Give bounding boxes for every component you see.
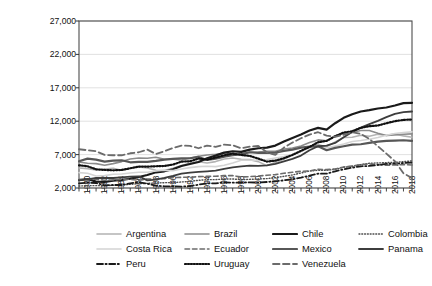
legend-item-panama[interactable]: Panama bbox=[358, 241, 423, 256]
legend-label: Mexico bbox=[302, 243, 332, 254]
legend-label: Peru bbox=[126, 258, 146, 269]
legend-swatch-icon bbox=[358, 244, 384, 254]
legend-label: Uruguay bbox=[214, 258, 249, 269]
legend-item-argentina[interactable]: Argentina bbox=[96, 226, 166, 241]
legend-swatch-icon bbox=[96, 259, 122, 269]
legend-label: Costa Rica bbox=[126, 243, 172, 254]
legend-item-chile[interactable]: Chile bbox=[272, 226, 323, 241]
series-line-panama bbox=[79, 112, 412, 181]
legend-label: Venezuela bbox=[302, 258, 346, 269]
legend-label: Colombia bbox=[388, 228, 428, 239]
legend-swatch-icon bbox=[96, 229, 122, 239]
legend-label: Argentina bbox=[126, 228, 166, 239]
legend-swatch-icon bbox=[272, 229, 298, 239]
legend-label: Ecuador bbox=[214, 243, 249, 254]
legend-item-brazil[interactable]: Brazil bbox=[184, 226, 237, 241]
legend-label: Panama bbox=[388, 243, 423, 254]
legend-item-costa-rica[interactable]: Costa Rica bbox=[96, 241, 172, 256]
legend-swatch-icon bbox=[358, 229, 384, 239]
legend-swatch-icon bbox=[184, 244, 210, 254]
legend-swatch-icon bbox=[184, 229, 210, 239]
legend-swatch-icon bbox=[96, 244, 122, 254]
legend-swatch-icon bbox=[184, 259, 210, 269]
legend-item-ecuador[interactable]: Ecuador bbox=[184, 241, 249, 256]
legend-item-colombia[interactable]: Colombia bbox=[358, 226, 428, 241]
chart-legend: ArgentinaBrazilChileColombiaCosta RicaEc… bbox=[96, 226, 432, 280]
legend-swatch-icon bbox=[272, 244, 298, 254]
legend-label: Brazil bbox=[214, 228, 237, 239]
legend-item-peru[interactable]: Peru bbox=[96, 256, 146, 271]
legend-item-mexico[interactable]: Mexico bbox=[272, 241, 332, 256]
legend-label: Chile bbox=[302, 228, 323, 239]
chart-figure: Gross domestic product per capita (in in… bbox=[0, 0, 432, 286]
legend-item-uruguay[interactable]: Uruguay bbox=[184, 256, 249, 271]
series-line-chile bbox=[79, 103, 412, 182]
legend-swatch-icon bbox=[272, 259, 298, 269]
legend-item-venezuela[interactable]: Venezuela bbox=[272, 256, 346, 271]
